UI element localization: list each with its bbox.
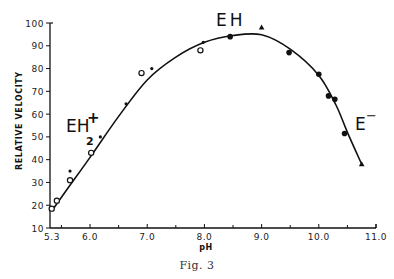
open-circle-point — [198, 48, 203, 53]
label-eh: EH — [216, 10, 246, 30]
filled-circle-point — [342, 131, 348, 137]
y-tick-label: 90 — [32, 41, 44, 51]
label-eh2-main: EH — [66, 116, 90, 136]
y-tick-label: 70 — [32, 87, 44, 97]
chart-svg: 102030405060708090100 5.36.07.08.09.010.… — [0, 0, 394, 279]
y-tick-label: 60 — [32, 110, 44, 120]
y-tick-label: 100 — [25, 19, 44, 29]
triangle-point — [359, 161, 365, 166]
y-tick-label: 20 — [32, 201, 44, 211]
filled-circle-point — [227, 34, 233, 40]
x-ticks: 5.36.07.08.09.010.011.0 — [44, 224, 387, 242]
dot-point — [202, 41, 205, 44]
label-eh2-plus: EH 2 + — [66, 109, 100, 148]
x-tick-label: 11.0 — [365, 232, 387, 242]
x-tick-label: 10.0 — [308, 232, 330, 242]
dot-point — [150, 67, 153, 70]
y-ticks: 102030405060708090100 — [25, 19, 50, 234]
filled-circle-point — [286, 50, 292, 56]
label-e-main: E — [355, 114, 366, 134]
label-eh2-superscript: + — [87, 109, 100, 127]
label-eh2-subscript: 2 — [86, 135, 94, 148]
dot-point — [124, 102, 127, 105]
open-circle-point — [49, 206, 54, 211]
y-tick-label: 50 — [32, 132, 44, 142]
dot-point — [99, 135, 102, 138]
x-tick-label: 5.3 — [44, 232, 60, 242]
label-e-minus: E − — [355, 108, 377, 134]
x-axis-label: pH — [199, 243, 213, 252]
filled-circle-point — [326, 93, 332, 99]
open-circle-point — [54, 198, 59, 203]
y-tick-label: 80 — [32, 64, 44, 74]
x-tick-label: 9.0 — [254, 232, 270, 242]
y-tick-label: 40 — [32, 155, 44, 165]
filled-circle-point — [332, 97, 338, 103]
y-tick-label: 30 — [32, 178, 44, 188]
x-tick-label: 7.0 — [139, 232, 155, 242]
x-tick-label: 8.0 — [197, 232, 213, 242]
open-circle-point — [139, 71, 144, 76]
triangle-point — [259, 25, 265, 30]
y-axis-label: RELATIVE VELOCITY — [15, 71, 24, 170]
dot-point — [68, 169, 71, 172]
filled-circle-point — [316, 71, 322, 77]
label-e-superscript: − — [366, 108, 377, 123]
open-circle-point — [89, 150, 94, 155]
y-tick-label: 10 — [32, 224, 44, 234]
x-tick-label: 6.0 — [82, 232, 98, 242]
open-circle-point — [67, 178, 72, 183]
figure-caption: Fig. 3 — [0, 259, 394, 272]
